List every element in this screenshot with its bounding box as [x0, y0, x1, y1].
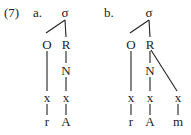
edge-b-sigma-rime — [149, 20, 150, 37]
edge-b-sigma-onset — [130, 20, 149, 33]
edge-a-sigma-onset — [46, 20, 65, 33]
tree-edges — [0, 0, 191, 135]
edge-b-rime-x3 — [151, 50, 177, 91]
edge-a-sigma-rime — [65, 20, 66, 37]
